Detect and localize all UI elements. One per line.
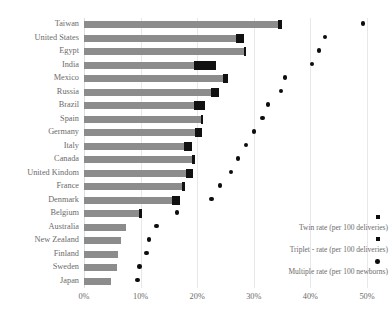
bar-triplet-rate	[278, 20, 281, 29]
bar-twin-rate	[84, 21, 282, 28]
y-axis-label: United States	[35, 31, 79, 44]
legend-entry: Twin rate (per 100 deliveries)	[228, 216, 388, 232]
bar-triplet-rate	[195, 128, 202, 137]
chart-row: Denmark	[84, 194, 392, 207]
bar-triplet-rate	[182, 182, 185, 191]
dot-multiple-rate	[317, 48, 322, 53]
bar-triplet-rate	[194, 61, 216, 70]
y-axis-label: Sweden	[53, 260, 79, 273]
chart-row: Egypt	[84, 45, 392, 58]
bar-twin-rate	[84, 143, 192, 150]
legend-label: Triplet - rate (per 100 deliveries)	[228, 238, 388, 254]
dot-multiple-rate	[283, 75, 288, 80]
chart-legend: Twin rate (per 100 deliveries)Triplet - …	[228, 216, 388, 282]
dot-multiple-rate	[279, 89, 284, 94]
chart-row: India	[84, 59, 392, 72]
y-axis-label: Mexico	[54, 71, 79, 84]
y-axis-label: United Kindom	[27, 166, 79, 179]
bar-twin-rate	[84, 237, 121, 244]
dot-multiple-rate	[244, 143, 249, 148]
chart-row: Taiwan	[84, 18, 392, 31]
bar-triplet-rate	[184, 142, 192, 151]
x-axis-tick-label: 20%	[190, 292, 205, 301]
bar-twin-rate	[84, 210, 142, 217]
dot-multiple-rate	[135, 278, 140, 283]
chart-row: France	[84, 180, 392, 193]
x-axis-tick-label: 30%	[246, 292, 261, 301]
bar-twin-rate	[84, 278, 111, 285]
bar-twin-rate	[84, 183, 185, 190]
legend-entry: Triplet - rate (per 100 deliveries)	[228, 238, 388, 254]
x-axis-tick-label: 10%	[133, 292, 148, 301]
chart-row: Brazil	[84, 99, 392, 112]
dot-multiple-rate	[361, 21, 366, 26]
dot-multiple-rate	[147, 237, 152, 242]
bar-triplet-rate	[194, 101, 205, 110]
bar-triplet-rate	[186, 169, 193, 178]
dot-multiple-rate	[260, 116, 265, 121]
dot-multiple-rate	[236, 156, 241, 161]
bar-twin-rate	[84, 197, 180, 204]
chart-row: Russia	[84, 86, 392, 99]
legend-label: Multiple rate (per 100 newborns)	[228, 260, 388, 276]
chart-row: Canada	[84, 153, 392, 166]
dot-multiple-rate	[252, 129, 257, 134]
y-axis-label: France	[56, 179, 79, 192]
y-axis-label: Egypt	[59, 44, 79, 57]
y-axis-label: Finland	[54, 247, 79, 260]
chart-row: Mexico	[84, 72, 392, 85]
bar-twin-rate	[84, 156, 195, 163]
bar-triplet-rate	[223, 74, 229, 83]
y-axis-label: Belgium	[50, 206, 79, 219]
y-axis-label: Russia	[57, 85, 79, 98]
y-axis-label: Italy	[64, 139, 79, 152]
bar-twin-rate	[84, 170, 193, 177]
bar-triplet-rate	[139, 209, 141, 218]
y-axis-label: Germany	[48, 125, 79, 138]
legend-square-icon	[376, 237, 380, 241]
bar-twin-rate	[84, 224, 126, 231]
chart-row: Germany	[84, 126, 392, 139]
y-axis-label: Taiwan	[55, 17, 79, 30]
dot-multiple-rate	[154, 224, 159, 229]
legend-dot-icon	[375, 259, 380, 264]
y-axis-label: Australia	[49, 220, 79, 233]
x-axis-tick-label: 50%	[359, 292, 374, 301]
bar-triplet-rate	[201, 115, 203, 124]
x-axis-tick-label: 0%	[78, 292, 89, 301]
bar-twin-rate	[84, 129, 202, 136]
y-axis-label: Brazil	[59, 98, 79, 111]
x-axis-tick-label: 40%	[303, 292, 318, 301]
bar-triplet-rate	[211, 88, 219, 97]
bar-twin-rate	[84, 48, 246, 55]
bar-twin-rate	[84, 251, 118, 258]
bar-triplet-rate	[244, 47, 246, 56]
bar-twin-rate	[84, 102, 205, 109]
bar-twin-rate	[84, 116, 203, 123]
legend-label: Twin rate (per 100 deliveries)	[228, 216, 388, 232]
legend-square-icon	[376, 215, 380, 219]
chart-row: Italy	[84, 140, 392, 153]
x-axis: 0%10%20%30%40%50%	[84, 292, 367, 308]
y-axis-label: New Zealand	[35, 233, 79, 246]
dot-multiple-rate	[144, 251, 149, 256]
dot-multiple-rate	[209, 197, 214, 202]
chart-row: United States	[84, 32, 392, 45]
y-axis-label: India	[62, 58, 79, 71]
bar-triplet-rate	[172, 196, 180, 205]
dot-multiple-rate	[310, 62, 315, 67]
bar-twin-rate	[84, 264, 117, 271]
dot-multiple-rate	[218, 183, 223, 188]
y-axis-label: Japan	[60, 274, 79, 287]
bar-twin-rate	[84, 35, 244, 42]
bar-twin-rate	[84, 75, 228, 82]
dot-multiple-rate	[175, 210, 180, 215]
bar-twin-rate	[84, 89, 219, 96]
dot-multiple-rate	[323, 35, 328, 40]
y-axis-label: Denmark	[48, 193, 79, 206]
dot-multiple-rate	[137, 264, 142, 269]
chart-row: Spain	[84, 113, 392, 126]
legend-entry: Multiple rate (per 100 newborns)	[228, 260, 388, 276]
dot-multiple-rate	[229, 170, 234, 175]
chart-container: TaiwanUnited StatesEgyptIndiaMexicoRussi…	[0, 0, 392, 320]
